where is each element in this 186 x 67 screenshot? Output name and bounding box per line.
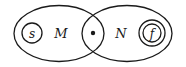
region-n-ellipse: [82, 6, 172, 62]
region-m-label: M: [53, 26, 68, 41]
diagram-canvas: s M N f: [0, 0, 186, 67]
junction-dot-icon: [91, 31, 95, 35]
region-n-label: N: [114, 26, 127, 41]
start-state-label: s: [29, 27, 35, 41]
final-state-label: f: [149, 27, 157, 41]
